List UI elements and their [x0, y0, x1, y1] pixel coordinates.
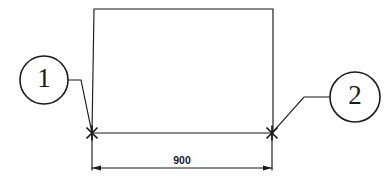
leader-line-callout-2: [272, 97, 330, 133]
callout-label-1: 1: [37, 63, 51, 93]
body-outline-path: [92, 9, 273, 133]
callout-bubble-1[interactable]: 1: [20, 56, 68, 104]
cad-drawing-canvas: 900 1 2: [0, 0, 392, 192]
dimension-group: 900: [92, 136, 272, 171]
dimension-arrowhead-right-icon: [263, 165, 272, 170]
leader-line-callout-1: [68, 80, 92, 133]
body-outline-group: [92, 9, 273, 133]
callout-label-2: 2: [348, 80, 362, 110]
leader-lines-group: [68, 80, 330, 133]
dimension-arrowhead-left-icon: [92, 165, 101, 170]
technical-drawing: 900 1 2: [0, 0, 392, 192]
dimension-value-label: 900: [173, 154, 191, 166]
callout-bubble-2[interactable]: 2: [330, 72, 380, 122]
